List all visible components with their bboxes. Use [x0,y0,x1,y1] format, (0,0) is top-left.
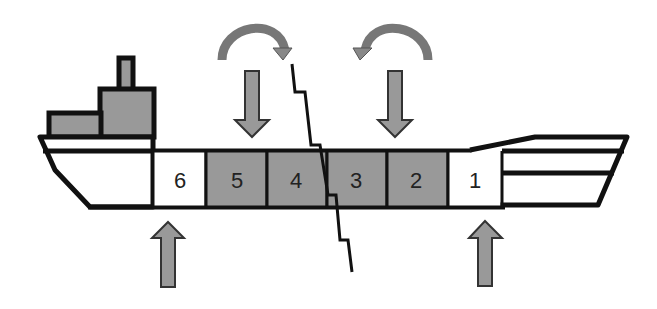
down-arrow-icon [235,71,269,137]
hold-label: 3 [350,168,362,193]
hold-4: 4 [267,151,327,207]
cargo-holds: 6 5 4 3 2 1 [153,151,502,207]
up-arrow-icon [152,222,184,287]
funnel [119,58,133,90]
deckhouse [49,113,101,137]
hold-label: 6 [174,168,186,193]
hold-label: 4 [290,168,302,193]
hold-label: 1 [469,168,481,193]
hold-2: 2 [387,151,448,207]
up-arrow-icon [469,221,502,286]
bridge-block [100,89,154,137]
superstructure [49,58,154,137]
curved-arrow-counterclockwise-icon [353,28,428,60]
stern-hull [40,137,153,207]
hold-label: 2 [410,168,422,193]
hold-label: 5 [231,168,243,193]
hold-6: 6 [153,151,206,207]
ship-diagram: 6 5 4 3 2 1 [0,0,657,309]
hold-5: 5 [206,151,267,207]
curved-arrow-clockwise-icon [222,28,292,60]
down-arrow-icon [378,71,412,137]
